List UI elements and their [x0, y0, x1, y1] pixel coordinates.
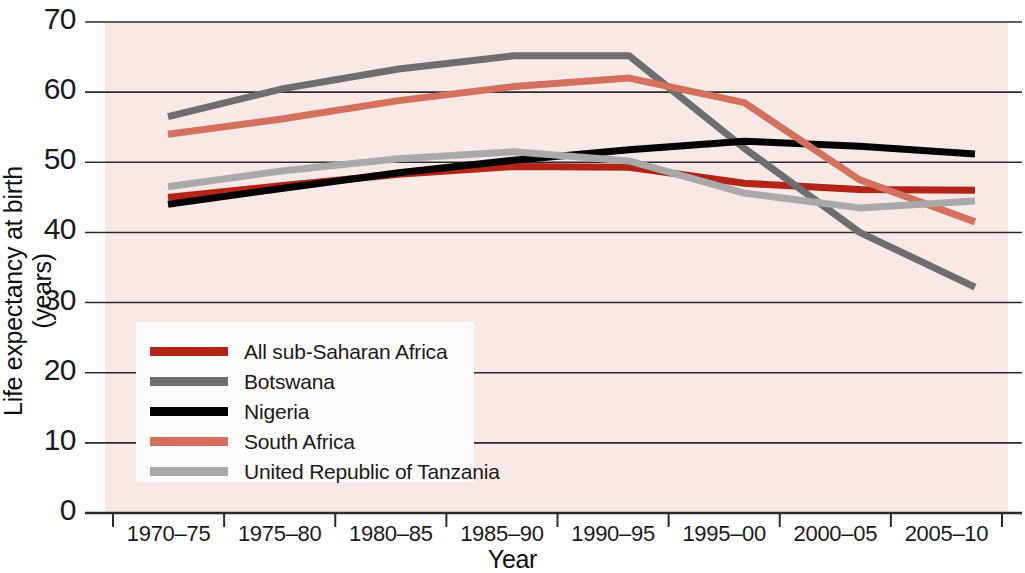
x-tick-label: 1985–90 [442, 521, 562, 547]
legend-label: South Africa [244, 431, 355, 452]
chart-legend: All sub-Saharan AfricaBotswanaNigeriaSou… [136, 322, 474, 482]
legend-item: United Republic of Tanzania [150, 456, 500, 486]
legend-label: Botswana [244, 371, 335, 392]
x-tick-label: 1975–80 [220, 521, 340, 547]
chart-canvas [0, 0, 1025, 573]
series-line [168, 78, 975, 222]
legend-swatch [150, 407, 228, 416]
legend-item: All sub-Saharan Africa [150, 336, 447, 366]
legend-label: United Republic of Tanzania [244, 461, 500, 482]
x-tick-label: 2005–10 [886, 521, 1006, 547]
x-tick-label: 1980–85 [331, 521, 451, 547]
legend-item: Nigeria [150, 396, 309, 426]
legend-item: South Africa [150, 426, 355, 456]
x-axis-title: Year [0, 545, 1025, 573]
legend-swatch [150, 437, 228, 446]
x-tick-label: 1995–00 [664, 521, 784, 547]
legend-item: Botswana [150, 366, 335, 396]
life-expectancy-chart: 010203040506070 1970–751975–801980–85198… [0, 0, 1025, 573]
x-tick-label: 2000–05 [775, 521, 895, 547]
legend-swatch [150, 377, 228, 386]
legend-swatch [150, 347, 228, 356]
x-tick-label: 1970–75 [109, 521, 229, 547]
x-tick-label: 1990–95 [553, 521, 673, 547]
legend-label: All sub-Saharan Africa [244, 341, 447, 362]
legend-label: Nigeria [244, 401, 309, 422]
y-axis-title: Life expectancy at birth (years) [0, 126, 57, 456]
legend-swatch [150, 467, 228, 476]
y-tick-label: 70 [12, 2, 76, 36]
y-tick-label: 60 [12, 72, 76, 106]
y-tick-label: 0 [12, 493, 76, 527]
series-lines [168, 56, 975, 287]
